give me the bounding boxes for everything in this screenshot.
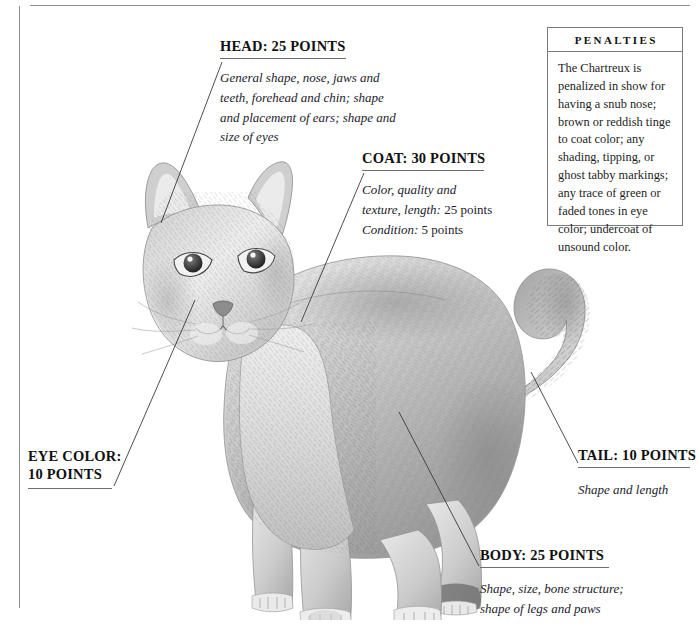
callout-body-underline <box>480 567 609 568</box>
callout-tail-underline <box>578 467 690 468</box>
penalties-heading-bar: PENALTIES <box>548 28 682 52</box>
penalties-panel: PENALTIES The Chartreux is penalized in … <box>547 27 683 226</box>
callout-head: HEAD: 25 POINTS General shape, nose, jaw… <box>220 38 395 147</box>
callout-coat-title: COAT: 30 POINTS <box>362 150 537 167</box>
cat-chest <box>226 322 376 562</box>
callout-coat-body-line-1: Color, quality and <box>362 180 537 200</box>
callout-tail-title: TAIL: 10 POINTS <box>578 447 693 464</box>
callout-tail: TAIL: 10 POINTS Shape and length <box>578 447 693 500</box>
callout-eye-color: EYE COLOR: 10 POINTS <box>28 448 138 489</box>
callout-body-description-line-1: Shape, size, bone structure; <box>480 579 685 599</box>
callout-tail-body: Shape and length <box>578 480 698 500</box>
callout-coat-body: Color, quality and texture, length: 25 p… <box>362 180 537 239</box>
callout-body-description: Shape, size, bone structure; shape of le… <box>480 579 685 619</box>
callout-eye-color-title-line-1: EYE COLOR: <box>28 448 138 466</box>
callout-coat: COAT: 30 POINTS Color, quality and textu… <box>362 150 537 239</box>
penalties-text: The Chartreux is penalized in show for h… <box>548 52 682 256</box>
callout-head-underline <box>220 58 346 59</box>
callout-body-title: BODY: 25 POINTS <box>480 547 680 564</box>
page-rule-left <box>19 6 20 608</box>
callout-coat-body-line-2: texture, length: 25 points <box>362 200 537 220</box>
callout-head-body: General shape, nose, jaws and teeth, for… <box>220 68 398 147</box>
callout-eye-color-title: EYE COLOR: 10 POINTS <box>28 448 138 483</box>
penalties-heading: PENALTIES <box>572 34 657 46</box>
callout-eye-color-underline <box>28 488 112 489</box>
callout-coat-body-line-3: Condition: 5 points <box>362 220 537 240</box>
page-rule-top <box>30 5 690 6</box>
callout-body-description-line-2: shape of legs and paws <box>480 599 685 619</box>
callout-head-title: HEAD: 25 POINTS <box>220 38 395 55</box>
callout-coat-underline <box>362 170 484 171</box>
callout-body: BODY: 25 POINTS Shape, size, bone struct… <box>480 547 680 619</box>
callout-eye-color-title-line-2: 10 POINTS <box>28 466 138 484</box>
